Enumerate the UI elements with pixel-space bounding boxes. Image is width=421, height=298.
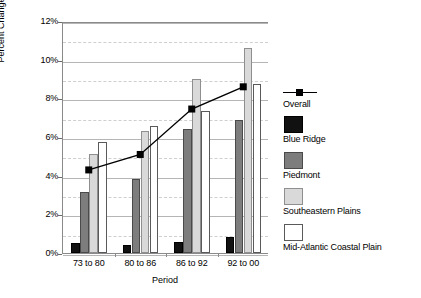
legend-label: Overall [283,99,419,110]
x-tick-mark [166,253,167,257]
x-tick-label: 80 to 86 [115,258,167,268]
bar [150,126,159,253]
legend-swatch [284,152,303,169]
bar [123,245,132,253]
bar [71,243,80,253]
bar [235,120,244,253]
legend-label: Blue Ridge [283,134,419,145]
legend-line-marker-icon [283,88,317,98]
gridline-major [63,100,268,101]
bar [174,242,183,253]
x-tick-label: 73 to 80 [63,258,115,268]
y-tick-label: 10% [26,56,58,65]
y-tick-label: 2% [26,210,58,219]
bar [141,131,150,253]
chart-legend: OverallBlue RidgePiedmontSoutheastern Pl… [283,88,419,260]
legend-entry: Piedmont [283,152,419,181]
legend-entry: Mid-Atlantic Coastal Plain [283,224,419,253]
plot-area: 73 to 8080 to 8686 to 9292 to 00 [62,22,268,254]
gridline-major [63,62,268,63]
bar [183,129,192,253]
y-tick-label: 0% [26,249,58,258]
bar [89,154,98,253]
bar [132,179,141,253]
y-tick-label: 6% [26,133,58,142]
y-tick-label: 4% [26,172,58,181]
bar [244,48,253,253]
bar [98,142,107,253]
legend-entry: Southeastern Plains [283,188,419,217]
gridline-minor [63,42,268,43]
x-tick-label: 86 to 92 [166,258,218,268]
bar [253,84,262,253]
legend-label: Mid-Atlantic Coastal Plain [283,242,419,253]
legend-swatch [284,188,303,205]
x-axis-title: Period [62,275,268,285]
y-tick-label: 12% [26,17,58,26]
legend-label: Southeastern Plains [283,206,419,217]
gridline-minor [63,81,268,82]
x-tick-mark [218,253,219,257]
bar [226,237,235,253]
legend-entry: Overall [283,88,419,110]
x-tick-mark [115,253,116,257]
bar [192,79,201,253]
chart-container: Percent Change 0%2%4%6%8%10%12% 73 to 80… [0,0,421,298]
legend-swatch [284,116,303,133]
y-axis-title: Percent Change [0,0,6,95]
bar [201,111,210,253]
x-tick-label: 92 to 00 [218,258,270,268]
gridline-major [63,23,268,24]
legend-swatch [284,224,303,241]
y-tick-label: 8% [26,94,58,103]
y-tick-mark [58,254,62,255]
legend-entry: Blue Ridge [283,116,419,145]
bar [80,192,89,253]
legend-label: Piedmont [283,170,419,181]
